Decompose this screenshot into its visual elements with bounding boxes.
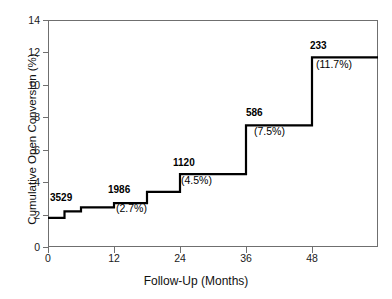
annotation-count-3529: 3529 xyxy=(50,193,72,203)
step-line xyxy=(48,57,378,218)
annotation-pct-1986: (2.7%) xyxy=(116,203,147,214)
step-curve xyxy=(0,0,392,299)
annotation-count-586: 586 xyxy=(246,108,263,118)
annotation-pct-1120: (4.5%) xyxy=(181,175,212,186)
annotation-count-1986: 1986 xyxy=(108,185,130,195)
chart-figure: 14 12 10 8 6 4 2 0 Cumulative Open Conve… xyxy=(0,0,392,299)
annotation-count-233: 233 xyxy=(310,41,327,51)
annotation-pct-233: (11.7%) xyxy=(316,59,352,70)
annotation-count-1120: 1120 xyxy=(173,158,195,168)
annotation-pct-586: (7.5%) xyxy=(254,126,285,137)
